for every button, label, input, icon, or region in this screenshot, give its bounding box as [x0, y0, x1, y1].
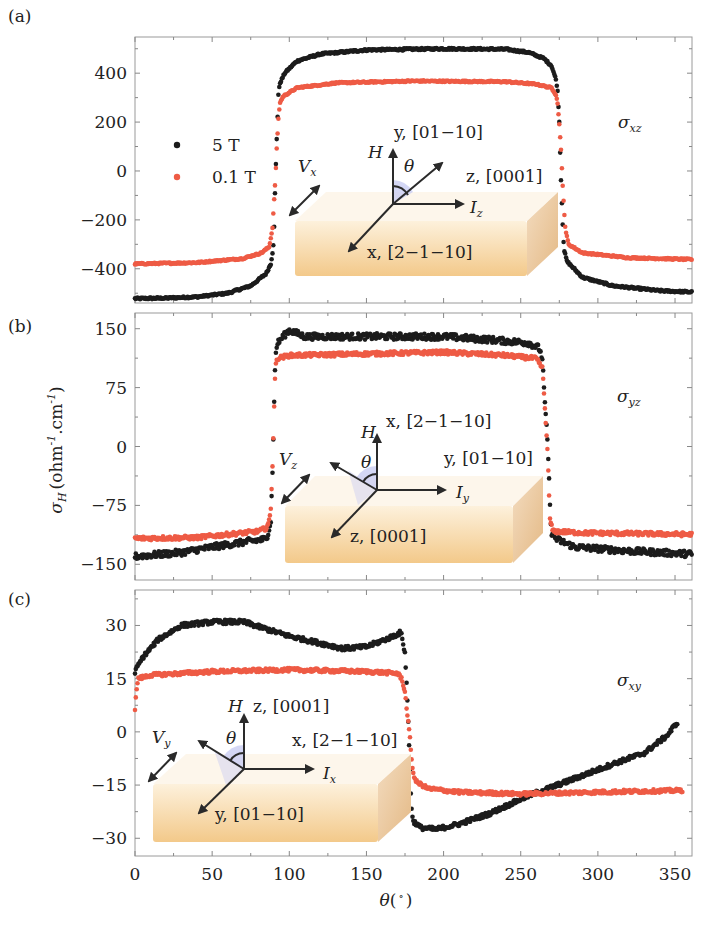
y-tick-label: 0 — [116, 722, 127, 742]
voltage-label: Vx — [298, 156, 317, 179]
legend: 5 T 0.1 T — [174, 135, 257, 187]
axis-diag-label: y, [01−10] — [214, 804, 304, 824]
axis-right-label: z, [0001] — [466, 166, 542, 186]
figure: (a) −400−2000200400 Vx H θ Iz y, [01−10]… — [0, 0, 726, 942]
component-label-c: σxy — [617, 670, 642, 693]
panel-label-c: (c) — [8, 589, 31, 609]
y-tick-label: 200 — [95, 112, 127, 132]
panel-a-inset: Vx H θ Iz y, [01−10] z, [0001] x, [2−1−1… — [290, 122, 558, 276]
y-tick-label: −75 — [91, 495, 127, 515]
panel-label-a: (a) — [8, 6, 31, 26]
axis-right-label: x, [2−1−10] — [292, 730, 397, 750]
field-label: H — [367, 142, 384, 162]
x-tick-label: 250 — [505, 864, 537, 884]
x-tick-label: 300 — [582, 864, 614, 884]
x-axis-label: θ(∘) — [380, 890, 413, 910]
angle-label: θ — [361, 452, 371, 472]
x-tick-label: 0 — [130, 864, 141, 884]
panel-b-inset: Vz H θ Iy x, [2−1−10] y, [01−10] z, [000… — [279, 411, 543, 563]
field-label: H — [360, 422, 377, 442]
x-tick-label: 100 — [273, 864, 305, 884]
panel-b: (b) −150−75075150 Vz H θ Iy x, [2−1−10] … — [8, 313, 694, 580]
legend-label-01t: 0.1 T — [212, 167, 256, 187]
x-tick-label: 350 — [659, 864, 691, 884]
y-tick-label: −30 — [91, 828, 127, 848]
axis-right-label: y, [01−10] — [443, 448, 533, 468]
y-tick-label: 150 — [95, 319, 127, 339]
y-axis-label: σH(ohm-1.cm-1) — [45, 386, 69, 513]
block-top-face — [295, 192, 558, 221]
legend-marker-5t — [174, 142, 180, 148]
axis-up-label: z, [0001] — [253, 696, 329, 716]
panel-a: (a) −400−2000200400 Vx H θ Iz y, [01−10]… — [8, 6, 694, 303]
legend-label-5t: 5 T — [212, 135, 240, 155]
component-label-a: σxz — [618, 112, 642, 135]
y-tick-label: −400 — [80, 259, 127, 279]
voltage-label: Vz — [279, 449, 297, 472]
y-tick-label: 400 — [95, 63, 127, 83]
x-tick-label: 50 — [201, 864, 223, 884]
axis-diag-label: x, [2−1−10] — [367, 242, 472, 262]
y-tick-label: 15 — [105, 669, 127, 689]
x-tick-label: 200 — [427, 864, 459, 884]
y-tick-label: 0 — [116, 161, 127, 181]
legend-marker-01t — [174, 174, 180, 180]
y-tick-label: −15 — [91, 775, 127, 795]
field-label: H — [227, 696, 244, 716]
axis-diag-label: z, [0001] — [350, 526, 426, 546]
voltage-label: Vy — [152, 727, 171, 750]
component-label-b: σyz — [617, 386, 641, 409]
panel-label-b: (b) — [8, 316, 32, 336]
y-tick-label: 30 — [105, 615, 127, 635]
axis-up-label: x, [2−1−10] — [386, 411, 491, 431]
y-tick-label: 75 — [105, 378, 127, 398]
panel-c-inset: Vy H θ Ix z, [0001] x, [2−1−10] y, [01−1… — [149, 696, 411, 842]
angle-label: θ — [404, 156, 414, 176]
y-tick-label: −150 — [80, 554, 127, 574]
y-tick-label: −200 — [80, 210, 127, 230]
y-tick-label: 0 — [116, 437, 127, 457]
angle-label: θ — [226, 728, 236, 748]
axis-up-label: y, [01−10] — [393, 122, 483, 142]
x-tick-label: 150 — [350, 864, 382, 884]
panel-c: (c) −30−1501530050100150200250300350 Vy … — [8, 589, 692, 884]
